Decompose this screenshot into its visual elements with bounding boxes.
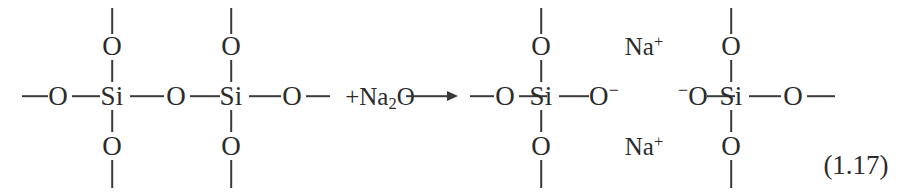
bond-si4-bottom-outer — [730, 160, 732, 188]
bond-si4-bottom-inner — [730, 110, 732, 132]
atom-oxygen-pendant-bottom-4: O — [721, 133, 741, 160]
counter-ion-sodium-bottom: Na+ — [625, 134, 663, 159]
atom-oxygen-product-bridging-left: O — [495, 83, 515, 110]
bond-product-si-o-3 — [749, 95, 781, 97]
bond-si3-bottom-inner — [540, 110, 542, 132]
bond-si2-bottom-inner — [230, 110, 232, 132]
atom-oxygen-pendant-top-1: O — [102, 33, 122, 60]
bond-o-si-2 — [190, 95, 220, 97]
chemical-equation-figure: O O Si O O O Si O O +Na2O O O Si — [0, 0, 902, 196]
charge-minus-left2: − — [678, 80, 688, 100]
atom-oxygen-pendant-top-3: O — [531, 33, 551, 60]
arrow-shaft — [406, 95, 450, 97]
atom-oxygen-pendant-top-4: O — [721, 33, 741, 60]
atom-silicon-1: Si — [101, 83, 124, 110]
atom-oxygen-pendant-bottom-1: O — [102, 133, 122, 160]
atom-oxygen-pendant-bottom-3: O — [531, 133, 551, 160]
bond-si3-bottom-outer — [540, 160, 542, 188]
bond-terminal-right-reactant — [306, 95, 330, 97]
bond-si2-top-inner — [230, 60, 232, 82]
bond-product-si-o-nonbridging — [559, 95, 589, 97]
bond-si1-bottom-outer — [111, 160, 113, 188]
bond-si2-bottom-outer — [230, 160, 232, 188]
atom-oxygen-nonbridging-right: O− — [589, 83, 619, 110]
atom-silicon-4: Si — [720, 83, 743, 110]
reagent-subscript-2: 2 — [388, 94, 396, 113]
bond-si-o-2 — [130, 95, 164, 97]
bond-terminal-left — [22, 95, 48, 97]
atom-oxygen-bridging-left: O — [48, 83, 68, 110]
bond-product-terminal-right — [807, 95, 835, 97]
reaction-arrow-icon — [406, 90, 458, 102]
charge-minus-right: − — [609, 80, 619, 100]
bond-si4-top-inner — [730, 60, 732, 82]
atom-silicon-2: Si — [220, 83, 243, 110]
counter-ion-sodium-bottom-element: Na — [625, 133, 654, 160]
counter-ion-sodium-top-element: Na — [625, 33, 654, 60]
bond-si1-top-inner — [111, 60, 113, 82]
atom-oxygen-bridging-far-right: O — [783, 83, 803, 110]
bond-si1-bottom-inner — [111, 110, 113, 132]
equation-number: (1.17) — [823, 152, 888, 179]
bond-si3-top-inner — [540, 60, 542, 82]
bond-product-terminal-left — [470, 95, 494, 97]
atom-oxygen-nonbridging-right-label: O — [589, 81, 609, 111]
atom-oxygen-bridging-right: O — [282, 83, 302, 110]
atom-oxygen-nonbridging-left2: −O — [678, 83, 708, 110]
arrow-head — [447, 91, 458, 101]
atom-oxygen-nonbridging-left2-label: O — [688, 81, 708, 111]
reagent-element-na: Na — [359, 83, 388, 110]
reagent-sodium-oxide: +Na2O — [345, 84, 415, 109]
atom-oxygen-pendant-bottom-2: O — [221, 133, 241, 160]
atom-silicon-3: Si — [530, 83, 553, 110]
counter-ion-sodium-top-charge: + — [654, 32, 663, 51]
bond-o-si-1 — [72, 95, 100, 97]
atom-oxygen-pendant-top-2: O — [221, 33, 241, 60]
counter-ion-sodium-top: Na+ — [625, 34, 663, 59]
bond-si-o-3 — [249, 95, 281, 97]
atom-oxygen-bridging-center: O — [166, 83, 186, 110]
counter-ion-sodium-bottom-charge: + — [654, 132, 663, 151]
plus-sign: + — [345, 83, 359, 110]
